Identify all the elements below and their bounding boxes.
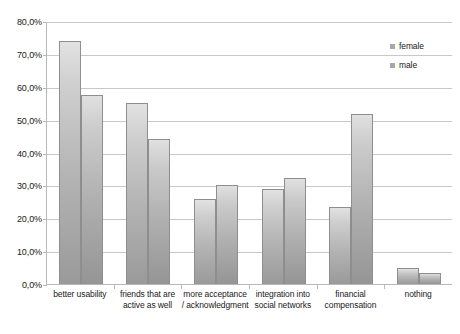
legend-label: male bbox=[399, 60, 417, 70]
bar-male bbox=[351, 114, 373, 284]
y-axis-tick bbox=[43, 121, 47, 122]
bar-female bbox=[59, 41, 81, 284]
x-axis-tick-label: nothing bbox=[384, 289, 452, 300]
bar-group bbox=[182, 22, 250, 284]
y-axis-tick-label: 50,0% bbox=[17, 116, 42, 126]
x-axis-tick-label: financial compensation bbox=[317, 289, 385, 310]
x-axis-tick bbox=[249, 285, 250, 289]
y-axis-tick bbox=[43, 22, 47, 23]
y-axis-tick bbox=[43, 55, 47, 56]
y-axis-tick-label: 0,0% bbox=[22, 280, 42, 290]
bar-male bbox=[284, 178, 306, 285]
bar-female bbox=[262, 189, 284, 284]
legend-label: female bbox=[399, 41, 424, 51]
bar-female bbox=[397, 268, 419, 284]
y-axis-tick-label: 80,0% bbox=[17, 17, 42, 27]
x-axis-tick bbox=[181, 285, 182, 289]
y-axis-tick-label: 10,0% bbox=[17, 247, 42, 257]
y-axis-tick bbox=[43, 186, 47, 187]
y-axis-tick-label: 70,0% bbox=[17, 50, 42, 60]
bar-male bbox=[81, 95, 103, 284]
legend-swatch-icon bbox=[390, 63, 395, 68]
bar-chart: 0,0%10,0%20,0%30,0%40,0%50,0%60,0%70,0%8… bbox=[0, 0, 460, 334]
y-axis-tick bbox=[43, 154, 47, 155]
bar-female bbox=[194, 199, 216, 284]
y-axis-tick-label: 20,0% bbox=[17, 214, 42, 224]
bar-female bbox=[126, 103, 148, 284]
legend-item-female: female bbox=[390, 41, 424, 51]
x-axis-tick-label: friends that are active as well bbox=[114, 289, 182, 310]
bar-group bbox=[115, 22, 183, 284]
y-axis-labels: 0,0%10,0%20,0%30,0%40,0%50,0%60,0%70,0%8… bbox=[0, 22, 42, 285]
legend-item-male: male bbox=[390, 60, 424, 70]
y-axis-tick-label: 40,0% bbox=[17, 149, 42, 159]
legend: female male bbox=[390, 41, 424, 70]
x-axis-tick bbox=[114, 285, 115, 289]
bar-male bbox=[148, 139, 170, 284]
x-axis-tick bbox=[384, 285, 385, 289]
y-axis-tick-label: 30,0% bbox=[17, 181, 42, 191]
y-axis-tick bbox=[43, 88, 47, 89]
y-axis-tick bbox=[43, 252, 47, 253]
x-axis-labels: better usabilityfriends that are active … bbox=[46, 289, 452, 334]
bar-group bbox=[47, 22, 115, 284]
bar-female bbox=[329, 207, 351, 284]
bar-group bbox=[318, 22, 386, 284]
bar-group bbox=[250, 22, 318, 284]
legend-swatch-icon bbox=[390, 44, 395, 49]
y-axis-tick bbox=[43, 219, 47, 220]
x-axis-tick bbox=[317, 285, 318, 289]
x-axis-tick-label: more acceptance / acknowledgment bbox=[181, 289, 249, 310]
x-axis-tick-label: better usability bbox=[46, 289, 114, 300]
x-axis-tick-label: integration into social networks bbox=[249, 289, 317, 310]
y-axis-tick bbox=[43, 285, 47, 286]
bar-male bbox=[419, 273, 441, 284]
bar-male bbox=[216, 185, 238, 284]
y-axis-tick-label: 60,0% bbox=[17, 83, 42, 93]
